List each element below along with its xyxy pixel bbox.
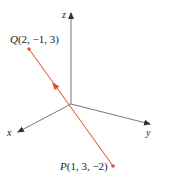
diagram-canvas: z x y Q(2, −1, 3) P(1, 3, −2) xyxy=(0,0,172,180)
z-axis-label: z xyxy=(61,9,66,20)
point-p-coords: (1, 3, −2) xyxy=(67,160,108,173)
point-q xyxy=(27,47,31,51)
y-axis-label: y xyxy=(145,127,151,138)
x-axis xyxy=(18,104,71,132)
axes xyxy=(18,13,150,132)
point-p-label: P(1, 3, −2) xyxy=(59,160,108,173)
point-q-coords: (2, −1, 3) xyxy=(18,33,59,46)
x-axis-label: x xyxy=(6,127,12,138)
y-axis xyxy=(71,104,150,124)
point-p xyxy=(111,164,115,168)
vector-direction-arrowhead-icon xyxy=(52,82,60,90)
point-q-name: Q xyxy=(10,33,18,45)
point-q-label: Q(2, −1, 3) xyxy=(10,33,59,46)
